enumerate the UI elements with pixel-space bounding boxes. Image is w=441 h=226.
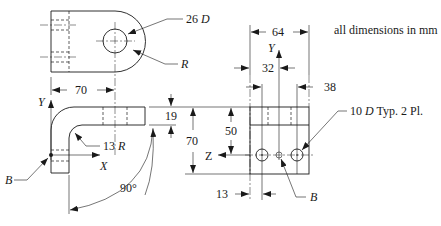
width-dimension-64: 64 (272, 25, 284, 39)
front-view: Y X B 13 R 90° 19 70 (5, 94, 250, 214)
z-axis-label: Z (205, 149, 212, 163)
bend-radius-leader (75, 133, 100, 146)
top-view: 26 D R 70 (40, 11, 210, 155)
point-b-dot (49, 153, 53, 157)
small-hole-label: 10 D Typ. 2 Pl. (350, 104, 423, 118)
hole-spacing-dimension-38: 38 (324, 80, 336, 94)
radius-leader (133, 50, 178, 64)
thickness-dimension-19: 19 (165, 109, 177, 123)
angle-90-label: 90° (120, 181, 137, 195)
width-dimension-70: 70 (75, 83, 87, 97)
point-b-label: B (5, 173, 13, 187)
radius-label: R (180, 57, 189, 71)
hole-leader (128, 19, 183, 34)
side-view: Y Z 64 32 38 50 13 10 D Typ. 2 Pl. B (205, 25, 423, 204)
units-note: all dimensions in mm (334, 23, 438, 37)
point-b-leader (14, 158, 48, 180)
side-plate-outline (250, 107, 309, 174)
side-point-b-label: B (310, 190, 318, 204)
offset-dimension-13: 13 (216, 187, 228, 201)
engineering-drawing: 26 D R 70 Y X B 13 R 90° (0, 0, 441, 226)
side-point-b-leader (281, 159, 306, 197)
top-plate-outline (51, 11, 145, 72)
side-y-axis-label: Y (268, 41, 276, 55)
height-dimension-70: 70 (186, 134, 198, 148)
x-axis-label: X (99, 159, 108, 173)
bent-bracket-outline (51, 107, 145, 173)
hole-diameter-label: 26 D (186, 12, 210, 26)
y-axis-label: Y (38, 95, 46, 109)
half-dimension-32: 32 (262, 61, 274, 75)
bend-radius-label: 13 R (103, 139, 126, 153)
hole-height-dimension-50: 50 (225, 124, 237, 138)
